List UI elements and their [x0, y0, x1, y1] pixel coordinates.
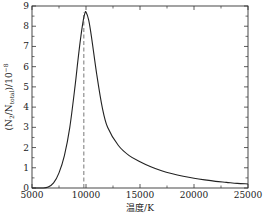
y-tick-label: 6: [23, 62, 29, 72]
ticks-layer: [32, 6, 248, 188]
x-tick-label: 10000: [72, 190, 101, 200]
y-tick-label: 9: [23, 1, 29, 11]
y-tick-label: 8: [23, 21, 29, 31]
y-axis-title: (N2/Ntotal)/10−8: [2, 63, 15, 130]
chart: 5000100001500020000250000123456789 温度/K …: [0, 0, 270, 217]
x-tick-label: 20000: [180, 190, 209, 200]
y-tick-label: 4: [23, 102, 29, 112]
y-tick-label: 3: [23, 122, 29, 132]
y-tick-label: 7: [23, 41, 29, 51]
plot-frame: [32, 6, 248, 188]
x-axis-title: 温度/K: [126, 202, 154, 213]
x-tick-label: 15000: [126, 190, 155, 200]
data-curve: [32, 12, 248, 189]
y-tick-label: 2: [23, 143, 29, 153]
y-tick-label: 0: [23, 183, 29, 193]
y-tick-label: 1: [23, 163, 29, 173]
tick-labels: 5000100001500020000250000123456789: [21, 1, 263, 200]
x-tick-label: 25000: [234, 190, 263, 200]
y-tick-label: 5: [23, 82, 29, 92]
